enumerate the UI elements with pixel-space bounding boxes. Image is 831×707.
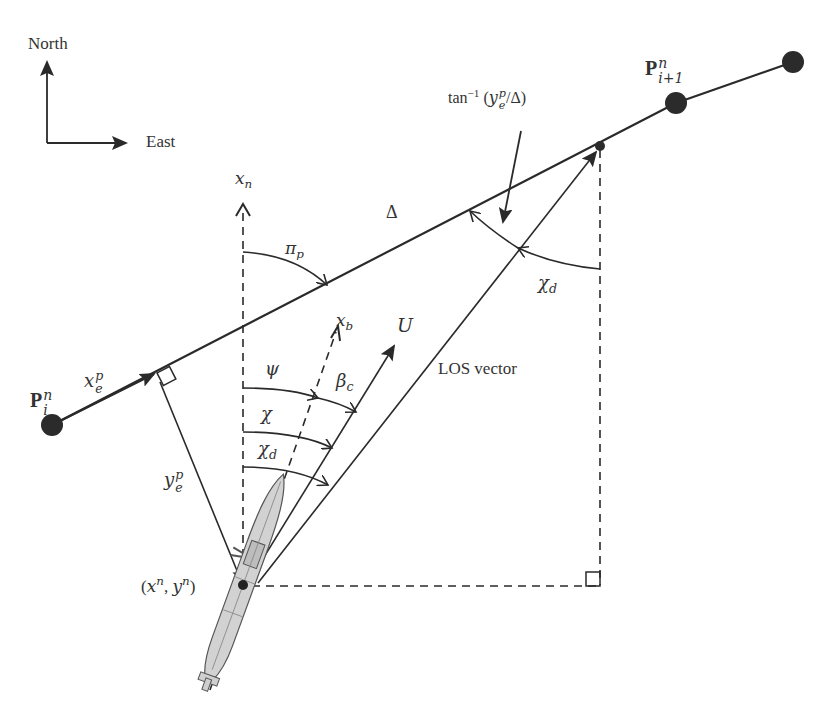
atan-label: tan−1 (ype/Δ) xyxy=(448,88,526,112)
pi-p-label: πp xyxy=(285,240,304,257)
vessel-position-dot xyxy=(238,580,248,590)
psi-label: ψ xyxy=(265,360,279,378)
north-label: North xyxy=(28,35,68,52)
velocity-vector-u xyxy=(248,346,394,583)
waypoint-p-i2 xyxy=(782,51,804,73)
lookahead-point xyxy=(595,141,605,151)
waypoint-p-i1-label: Pni+1 xyxy=(645,56,683,85)
y-e-p-label: ype xyxy=(164,468,183,494)
los-guidance-diagram xyxy=(0,0,831,707)
east-label: East xyxy=(146,133,175,150)
los-vector-label: LOS vector xyxy=(438,360,517,377)
vessel-icon xyxy=(184,467,294,694)
x-n-label: xn xyxy=(235,170,252,187)
waypoint-p-i1 xyxy=(665,92,687,114)
path-segment-next xyxy=(676,62,793,103)
u-label: U xyxy=(397,316,413,335)
atan-pointer-arrow xyxy=(503,131,521,222)
chi-label: χ xyxy=(261,405,272,423)
delta-label: Δ xyxy=(386,203,398,221)
chi-d-arc-right xyxy=(518,248,600,269)
path-segment-main xyxy=(52,103,676,425)
compass xyxy=(47,62,126,143)
waypoint-p-i-label: Pni xyxy=(30,388,52,417)
x-e-p-label: xpe xyxy=(84,369,103,395)
chi-arc xyxy=(243,432,332,448)
beta-c-arc xyxy=(318,398,356,412)
atan-arc xyxy=(470,211,518,248)
right-angle-marker-bottom xyxy=(586,572,600,586)
beta-c-label: βc xyxy=(336,372,353,390)
los-vector xyxy=(258,152,596,583)
chi-d-lower-label: χd xyxy=(258,440,277,458)
chi-d-right-label: χd xyxy=(538,274,557,292)
x-b-label: xb xyxy=(336,312,353,329)
psi-arc xyxy=(243,388,318,398)
vessel-position-label: (xn, yn) xyxy=(141,578,195,595)
